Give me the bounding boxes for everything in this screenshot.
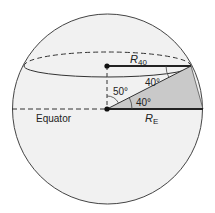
latitude-center-dot: [104, 63, 109, 68]
angle-40-upper-label: 40°: [145, 77, 160, 88]
sphere-latitude-diagram: R40 40° 50° 40° Equator RE: [0, 0, 215, 213]
earth-center-dot: [104, 106, 109, 111]
angle-50-label: 50°: [113, 86, 128, 97]
equator-label: Equator: [36, 113, 72, 124]
angle-40-lower-label: 40°: [136, 97, 151, 108]
